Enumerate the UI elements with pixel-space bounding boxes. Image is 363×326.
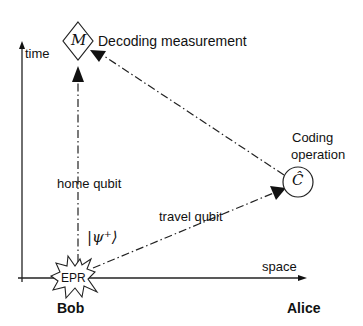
travel-qubit-arrowhead: [270, 186, 286, 200]
space-axis-label: space: [262, 260, 297, 273]
travel-qubit-path: [93, 186, 286, 268]
measurement-label: Decoding measurement: [98, 34, 247, 48]
coding-label-line2: operation: [291, 148, 345, 161]
measurement-symbol: M: [71, 33, 86, 48]
alice-label: Alice: [287, 301, 320, 315]
home-qubit-arrowhead: [72, 66, 84, 82]
travel-qubit-label: travel qubit: [159, 210, 223, 223]
bob-label: Bob: [57, 301, 84, 315]
coding-label-line1: Coding: [292, 131, 333, 144]
time-axis: [19, 41, 25, 282]
coding-symbol: Ĉ: [292, 173, 303, 188]
return-qubit-path: [90, 50, 284, 175]
home-qubit-label: home qubit: [57, 177, 121, 190]
epr-label: EPR: [61, 272, 86, 284]
home-qubit-path: [72, 66, 84, 262]
time-axis-label: time: [25, 47, 50, 60]
psi-plus-ket: |ψ⁺⟩: [87, 230, 118, 245]
return-arrowhead: [90, 50, 106, 62]
